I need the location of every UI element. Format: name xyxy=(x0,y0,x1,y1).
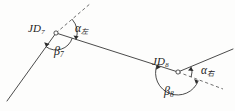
vertex-label-jd7-base: JD xyxy=(28,22,41,34)
angle-label-alpha-right-sub: 右 xyxy=(207,70,214,78)
diagram-canvas xyxy=(0,0,235,111)
traverse-deflection-diagram: JD7 α左 β7 JD8 α右 β8 xyxy=(0,0,235,111)
vertex-label-jd8-sub: 8 xyxy=(165,61,168,68)
angle-label-beta-right-sub: 8 xyxy=(170,90,174,99)
angle-label-beta-left-sub: 7 xyxy=(60,50,64,59)
angle-label-beta-left: β7 xyxy=(54,45,64,59)
angle-label-alpha-left-sub: 左 xyxy=(81,28,88,36)
angle-label-alpha-right: α右 xyxy=(201,65,214,78)
vertex-label-jd8: JD8 xyxy=(152,56,169,69)
vertex-marker-jd8 xyxy=(176,70,180,74)
vertex-label-jd8-base: JD xyxy=(152,55,165,67)
vertex-marker-jd7 xyxy=(54,31,58,35)
angle-label-alpha-left: α左 xyxy=(75,23,88,36)
vertex-label-jd7: JD7 xyxy=(28,23,45,36)
back-line-left-segment xyxy=(7,33,56,101)
vertex-label-jd7-sub: 7 xyxy=(41,28,44,35)
angle-label-beta-right: β8 xyxy=(164,85,174,99)
alpha-arc-right-group xyxy=(188,67,194,77)
